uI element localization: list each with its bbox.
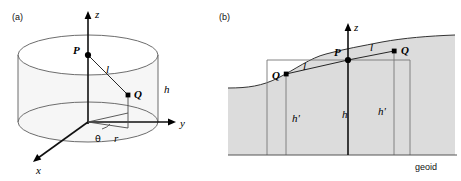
panel-b-z-axis-arrowhead [345,23,352,31]
panel-a-tag: (a) [12,12,23,22]
panel-b-label-h: h [342,108,348,120]
panel-b-point-p-label: P [334,46,341,58]
figure-svg: (a) z y x [0,0,461,181]
figure-container: (a) z y x [0,0,461,181]
panel-b-label-h-prime-right: h' [378,105,387,117]
panel-b-group: (b) z P [219,12,457,172]
panel-a-x-axis-label: x [35,164,41,176]
panel-a-point-q-label: Q [134,88,142,100]
panel-b-point-q-left-label: Q [272,69,280,81]
panel-b-point-q-left-marker [284,72,289,77]
panel-a-label-h: h [164,83,170,95]
panel-b-label-l-left: l [303,60,306,72]
panel-a-y-axis-label: y [179,117,185,129]
panel-b-label-l-right: l [370,41,373,53]
panel-a-point-p-label: P [73,44,80,56]
panel-a-point-p-marker [85,52,91,58]
geoid-label: geoid [415,162,437,172]
panel-b-point-p-marker [345,57,351,63]
panel-a-group: (a) z y x [12,8,185,176]
panel-a-label-l: l [106,63,109,75]
panel-b-label-h-prime-left: h' [292,112,301,124]
panel-a-label-theta: θ [95,133,101,144]
panel-a-point-q-marker [126,93,131,98]
panel-b-point-q-right-label: Q [401,44,409,56]
panel-a-z-axis-label: z [94,8,100,20]
panel-b-tag: (b) [219,12,230,22]
panel-b-point-q-right-marker [392,49,397,54]
panel-b-z-axis-label: z [353,21,359,33]
terrain-fill-region [228,35,455,155]
panel-a-label-r: r [114,132,119,144]
panel-a-z-axis-arrowhead [85,11,92,19]
panel-a-y-axis-arrowhead [168,119,176,126]
panel-a-x-axis-arrowhead [33,154,41,162]
